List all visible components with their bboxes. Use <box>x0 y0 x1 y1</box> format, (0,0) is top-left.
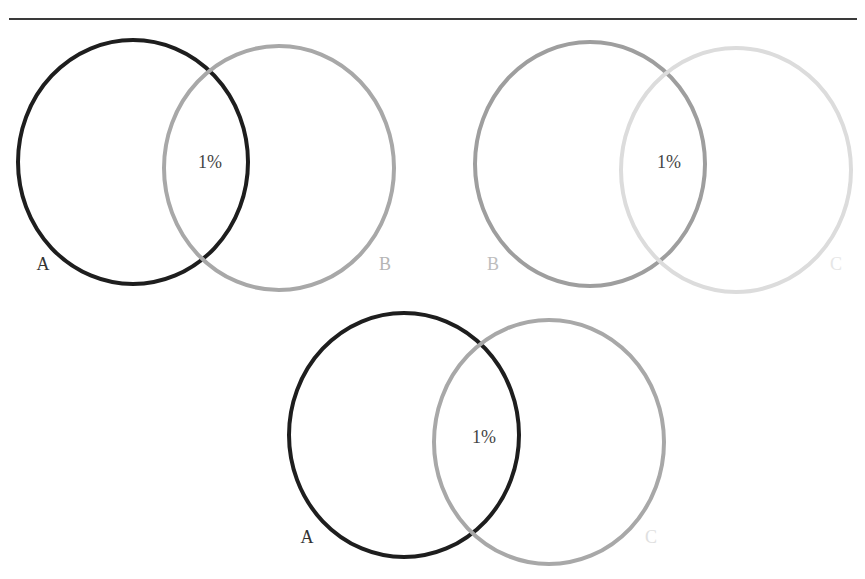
intersection-label: 1% <box>472 427 496 447</box>
set-c-label: C <box>645 527 657 547</box>
set-c-circle <box>621 48 851 292</box>
set-c-circle <box>434 320 664 564</box>
venn-b-c: 1% B C <box>475 42 851 292</box>
set-a-label: A <box>301 527 314 547</box>
set-c-label: C <box>830 254 842 274</box>
venn-a-b: 1% A B <box>18 40 394 290</box>
venn-diagrams: 1% A B 1% B C 1% A C <box>0 0 865 579</box>
set-a-label: A <box>37 254 50 274</box>
intersection-label: 1% <box>198 152 222 172</box>
intersection-label: 1% <box>657 152 681 172</box>
set-b-label: B <box>379 254 391 274</box>
set-b-label: B <box>487 254 499 274</box>
venn-a-c: 1% A C <box>289 313 664 564</box>
